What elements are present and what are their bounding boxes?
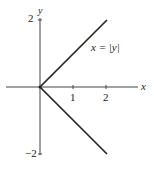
tick-label-x1: 1 (70, 91, 76, 103)
curve-label: x = |y| (90, 41, 120, 53)
origin-dot (39, 86, 42, 89)
tick-label-x2: 2 (103, 91, 109, 103)
y-axis-label: y (37, 5, 43, 16)
x-axis-label: x (140, 80, 146, 92)
graph: 1 2 x y 2 −2 x = |y| (0, 0, 154, 170)
tick-label-y2: 2 (28, 12, 34, 24)
tick-label-yneg2: −2 (25, 147, 37, 159)
